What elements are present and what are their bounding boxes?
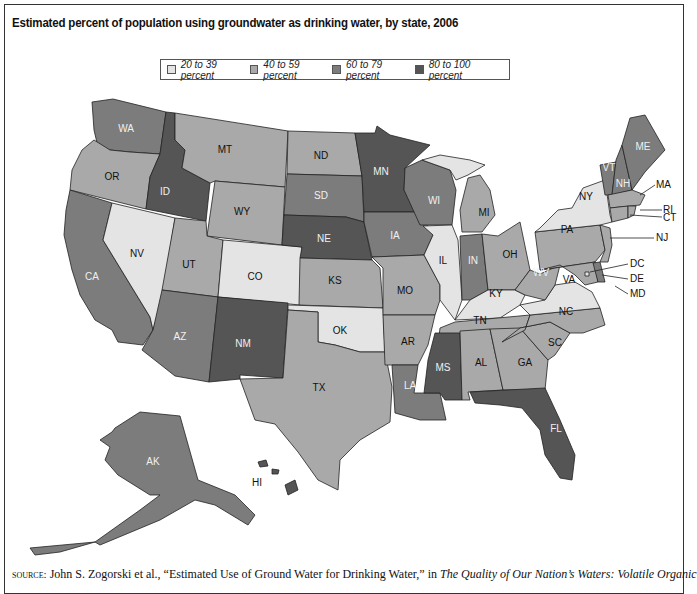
label-al: AL — [475, 357, 488, 368]
state-ct — [610, 206, 628, 222]
label-wa: WA — [118, 123, 134, 134]
label-nj: NJ — [656, 232, 668, 243]
label-ok: OK — [333, 325, 348, 336]
label-tn: TN — [473, 315, 486, 326]
label-ca: CA — [85, 271, 99, 282]
label-nd: ND — [314, 150, 328, 161]
source-citation: source: John S. Zogorski et al., “Estima… — [12, 567, 697, 582]
label-mn: MN — [373, 166, 389, 177]
label-ia: IA — [390, 230, 400, 241]
label-wy: WY — [234, 206, 250, 217]
label-mo: MO — [397, 285, 413, 296]
label-pa: PA — [561, 224, 574, 235]
callout-line-md — [615, 286, 628, 294]
source-prefix: source: — [12, 568, 47, 580]
label-ky: KY — [489, 288, 503, 299]
label-dc: DC — [630, 258, 644, 269]
label-sc: SC — [548, 337, 562, 348]
state-ny — [535, 180, 612, 232]
source-text: John S. Zogorski et al., “Estimated Use … — [47, 567, 440, 581]
label-mi: MI — [478, 207, 489, 218]
label-ut: UT — [182, 259, 195, 270]
label-ks: KS — [328, 275, 342, 286]
label-la: LA — [404, 380, 417, 391]
label-oh: OH — [503, 249, 518, 260]
label-tx: TX — [313, 382, 326, 393]
callout-line-ma — [640, 185, 655, 195]
label-ct: CT — [663, 212, 676, 223]
label-nv: NV — [130, 248, 144, 259]
label-az: AZ — [174, 331, 187, 342]
label-fl: FL — [550, 423, 562, 434]
label-de: DE — [630, 273, 644, 284]
label-ne: NE — [317, 233, 331, 244]
label-wv: WV — [533, 267, 549, 278]
label-me: ME — [636, 141, 651, 152]
label-ms: MS — [436, 362, 451, 373]
state-mi — [460, 175, 495, 232]
label-wi: WI — [428, 195, 440, 206]
label-co: CO — [248, 271, 263, 282]
label-nc: NC — [559, 306, 573, 317]
state-ak — [95, 412, 255, 545]
label-nh: NH — [616, 178, 630, 189]
label-ny: NY — [579, 191, 593, 202]
label-il: IL — [439, 255, 448, 266]
state-ri — [628, 206, 636, 218]
label-or: OR — [105, 171, 120, 182]
label-nm: NM — [235, 338, 251, 349]
label-ma: MA — [656, 179, 671, 190]
label-in: IN — [468, 255, 478, 266]
label-ga: GA — [518, 357, 533, 368]
label-mt: MT — [218, 144, 232, 155]
callout-line-ct — [630, 215, 662, 217]
label-va: VA — [563, 274, 576, 285]
label-vt: VT — [603, 162, 616, 173]
state-fl — [470, 388, 575, 480]
label-sd: SD — [314, 190, 328, 201]
source-italic: The Quality of Our Nation’s Waters: Vola… — [440, 567, 697, 581]
state-dc — [585, 272, 589, 276]
state-hi — [258, 460, 298, 495]
callout-line-de — [602, 275, 628, 279]
label-hi: HI — [252, 477, 262, 488]
label-ar: AR — [401, 336, 415, 347]
label-id: ID — [160, 186, 170, 197]
label-ak: AK — [146, 456, 160, 467]
label-md: MD — [630, 288, 646, 299]
alaska-islands — [30, 542, 95, 555]
